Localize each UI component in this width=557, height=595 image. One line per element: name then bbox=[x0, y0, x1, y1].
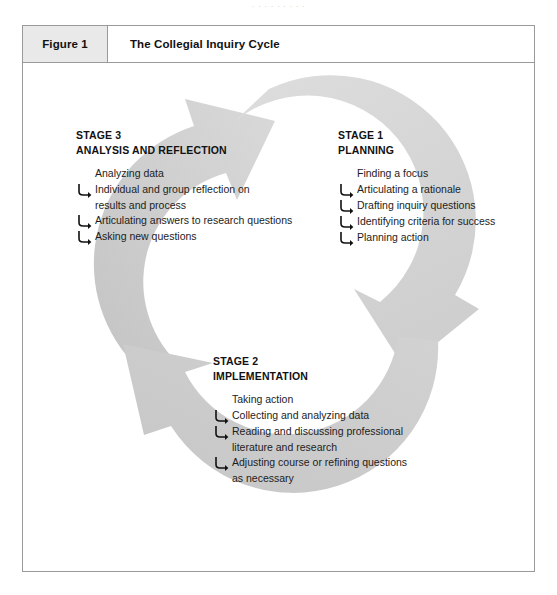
list-item: Drafting inquiry questions bbox=[338, 198, 495, 214]
list-item: Planning action bbox=[338, 230, 495, 246]
hook-arrow-icon bbox=[213, 424, 230, 440]
stage3-item-1-text: Individual and group reflection on resul… bbox=[95, 182, 250, 213]
stage3-number: STAGE 3 bbox=[76, 128, 292, 143]
list-item: Individual and group reflection on resul… bbox=[76, 182, 292, 213]
list-item: Reading and discussing professional lite… bbox=[213, 424, 407, 455]
stage1-number: STAGE 1 bbox=[338, 128, 495, 143]
list-item: Asking new questions bbox=[76, 229, 292, 245]
stage-block-stage1: STAGE 1 PLANNING Finding a focus Articul… bbox=[338, 128, 495, 246]
stage2-item-0-text: Taking action bbox=[232, 392, 293, 408]
hook-arrow-icon bbox=[76, 182, 93, 198]
stage2-item-3-text: Adjusting course or refining questions a… bbox=[232, 455, 407, 486]
stage-block-stage3: STAGE 3 ANALYSIS AND REFLECTION Analyzin… bbox=[76, 128, 292, 245]
stage-block-stage2: STAGE 2 IMPLEMENTATION Taking action Col… bbox=[213, 354, 407, 486]
stage3-item-list: Analyzing data Individual and group refl… bbox=[76, 166, 292, 245]
list-item: Analyzing data bbox=[76, 166, 292, 182]
stage1-item-3-text: Identifying criteria for success bbox=[357, 214, 495, 230]
stage3-item-2-text: Articulating answers to research questio… bbox=[95, 213, 292, 229]
list-item: Adjusting course or refining questions a… bbox=[213, 455, 407, 486]
figure-number: Figure 1 bbox=[23, 26, 108, 62]
stage2-item-1-text: Collecting and analyzing data bbox=[232, 408, 369, 424]
stage3-name: ANALYSIS AND REFLECTION bbox=[76, 143, 292, 158]
list-item: Identifying criteria for success bbox=[338, 214, 495, 230]
spacer bbox=[213, 392, 230, 408]
list-item: Articulating answers to research questio… bbox=[76, 213, 292, 229]
figure-caption-bar: Figure 1 The Collegial Inquiry Cycle bbox=[23, 26, 534, 63]
stage2-item-2-line2: literature and research bbox=[232, 440, 403, 456]
hook-arrow-icon bbox=[76, 213, 93, 229]
stage2-item-2-text: Reading and discussing professional lite… bbox=[232, 424, 403, 455]
list-item: Collecting and analyzing data bbox=[213, 408, 407, 424]
list-item: Articulating a rationale bbox=[338, 182, 495, 198]
stage1-item-0-text: Finding a focus bbox=[357, 166, 428, 182]
list-item: Finding a focus bbox=[338, 166, 495, 182]
stage2-number: STAGE 2 bbox=[213, 354, 407, 369]
stage3-item-1-line2: results and process bbox=[95, 198, 250, 214]
stage2-item-3-line1: Adjusting course or refining questions bbox=[232, 456, 407, 468]
hook-arrow-icon bbox=[213, 408, 230, 424]
hook-arrow-icon bbox=[76, 229, 93, 245]
hook-arrow-icon bbox=[213, 455, 230, 471]
page-top-sliver: · · · · · · · · · bbox=[0, 0, 557, 12]
stage1-item-2-text: Drafting inquiry questions bbox=[357, 198, 475, 214]
hook-arrow-icon bbox=[338, 230, 355, 246]
hook-arrow-icon bbox=[338, 214, 355, 230]
spacer bbox=[76, 166, 93, 182]
stage1-item-1-text: Articulating a rationale bbox=[357, 182, 461, 198]
hook-arrow-icon bbox=[338, 198, 355, 214]
stage3-item-1-line1: Individual and group reflection on bbox=[95, 183, 250, 195]
stage1-name: PLANNING bbox=[338, 143, 495, 158]
stage2-name: IMPLEMENTATION bbox=[213, 369, 407, 384]
stage3-item-3-text: Asking new questions bbox=[95, 229, 197, 245]
cycle-diagram: STAGE 3 ANALYSIS AND REFLECTION Analyzin… bbox=[23, 63, 534, 572]
stage2-item-list: Taking action Collecting and analyzing d… bbox=[213, 392, 407, 486]
stage2-item-2-line1: Reading and discussing professional bbox=[232, 425, 403, 437]
stage1-item-list: Finding a focus Articulating a rationale bbox=[338, 166, 495, 246]
stage2-item-3-line2: as necessary bbox=[232, 471, 407, 487]
list-item: Taking action bbox=[213, 392, 407, 408]
hook-arrow-icon bbox=[338, 182, 355, 198]
stage1-item-4-text: Planning action bbox=[357, 230, 429, 246]
figure-frame: Figure 1 The Collegial Inquiry Cycle bbox=[22, 25, 535, 572]
figure-title: The Collegial Inquiry Cycle bbox=[108, 26, 534, 62]
stage3-item-0-text: Analyzing data bbox=[95, 166, 164, 182]
spacer bbox=[338, 166, 355, 182]
